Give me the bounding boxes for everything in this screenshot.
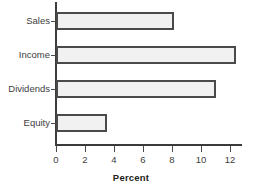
x-tick-label-10: 10 [189,154,213,165]
bar-rect [56,80,216,98]
x-tick-label-2: 2 [73,154,97,165]
x-tick-0 [56,146,57,152]
x-axis-line [55,144,242,146]
x-tick-6 [143,146,144,152]
bar-rect [56,114,107,132]
x-tick-label-0: 0 [44,154,68,165]
x-tick-label-12: 12 [218,154,242,165]
category-label-sales: Sales [0,12,50,30]
bar-rect [56,12,174,30]
category-label-equity: Equity [0,114,50,132]
x-tick-12 [230,146,231,152]
x-tick-4 [114,146,115,152]
x-axis-title: Percent [0,172,262,183]
x-tick-2 [85,146,86,152]
bar-chart: SalesIncomeDividendsEquity 024681012 Per… [0,0,262,196]
bar-rect [56,46,236,64]
x-tick-label-8: 8 [160,154,184,165]
x-tick-10 [201,146,202,152]
x-tick-8 [172,146,173,152]
category-label-dividends: Dividends [0,80,50,98]
x-tick-label-6: 6 [131,154,155,165]
x-tick-label-4: 4 [102,154,126,165]
category-label-income: Income [0,46,50,64]
